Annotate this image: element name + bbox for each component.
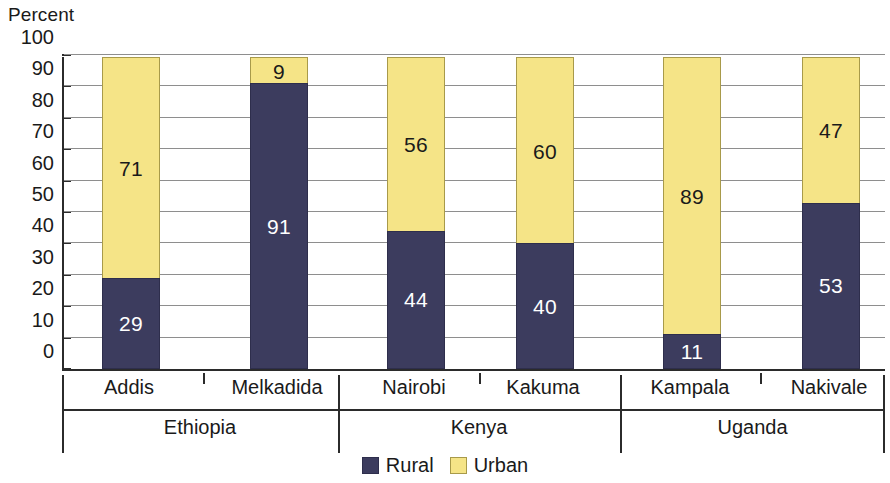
- category-axis-tick: [479, 373, 481, 384]
- legend-item-urban[interactable]: Urban: [450, 455, 528, 475]
- legend-label: Urban: [474, 455, 528, 475]
- category-label-nairobi: Nairobi: [344, 375, 484, 399]
- bar-melkadida[interactable]: 991: [250, 57, 308, 369]
- bar-value-urban: 60: [533, 141, 557, 162]
- y-axis-title: Percent: [8, 4, 74, 26]
- y-axis-tick-label: 80: [10, 90, 54, 110]
- gridline: [64, 54, 885, 55]
- y-axis-tick-label: 0: [10, 341, 54, 361]
- bar-value-urban: 9: [273, 61, 285, 82]
- bar-kampala[interactable]: 8911: [663, 57, 721, 369]
- bar-segment-urban[interactable]: 47: [802, 57, 860, 205]
- category-label-addis: Addis: [59, 375, 199, 399]
- y-axis-tick-label: 100: [10, 27, 54, 47]
- bar-segment-rural[interactable]: 29: [102, 278, 160, 369]
- legend-swatch-urban-icon: [450, 457, 467, 474]
- category-axis: AddisMelkadidaNairobiKakumaKampalaNakiva…: [62, 373, 885, 411]
- y-axis-tick-label: 10: [10, 310, 54, 330]
- bar-value-urban: 71: [119, 158, 143, 179]
- bar-value-rural: 44: [404, 289, 428, 310]
- bar-value-rural: 11: [681, 341, 703, 362]
- bar-addis[interactable]: 7129: [102, 57, 160, 369]
- bar-value-rural: 29: [119, 313, 143, 334]
- bar-nakivale[interactable]: 4753: [802, 57, 860, 369]
- group-axis: EthiopiaKenyaUganda: [62, 409, 885, 453]
- y-axis-tick-label: 60: [10, 153, 54, 173]
- bar-value-urban: 56: [404, 134, 428, 155]
- bar-segment-rural[interactable]: 40: [516, 243, 574, 369]
- bar-kakuma[interactable]: 6040: [516, 57, 574, 369]
- bar-segment-rural[interactable]: 44: [387, 231, 445, 369]
- group-label-uganda: Uganda: [620, 415, 885, 439]
- bar-value-rural: 40: [533, 296, 557, 317]
- bar-value-urban: 47: [819, 120, 843, 141]
- group-label-kenya: Kenya: [338, 415, 620, 439]
- chart-legend: RuralUrban: [0, 455, 890, 475]
- bar-segment-rural[interactable]: 91: [250, 83, 308, 369]
- group-separator: [620, 375, 622, 453]
- bar-segment-rural[interactable]: 11: [663, 334, 721, 369]
- y-axis-tick-label: 30: [10, 247, 54, 267]
- legend-swatch-rural-icon: [362, 457, 379, 474]
- group-separator: [62, 375, 64, 453]
- bar-value-rural: 53: [819, 275, 843, 296]
- bar-nairobi[interactable]: 5644: [387, 57, 445, 369]
- y-axis-tick-label: 90: [10, 58, 54, 78]
- bar-segment-urban[interactable]: 9: [250, 57, 308, 85]
- category-label-kakuma: Kakuma: [473, 375, 613, 399]
- stacked-bar-chart: Percent 0102030405060708090100 712999156…: [0, 0, 890, 483]
- y-axis-tick-label: 40: [10, 215, 54, 235]
- bar-value-urban: 89: [680, 186, 704, 207]
- category-axis-tick: [203, 373, 205, 384]
- group-separator: [883, 375, 885, 453]
- y-axis-tick-labels: 0102030405060708090100: [0, 57, 54, 371]
- bar-segment-urban[interactable]: 89: [663, 57, 721, 336]
- bar-segment-urban[interactable]: 56: [387, 57, 445, 233]
- bar-segment-urban[interactable]: 71: [102, 57, 160, 280]
- y-axis-tick-label: 50: [10, 184, 54, 204]
- y-axis-tick-label: 70: [10, 121, 54, 141]
- legend-label: Rural: [386, 455, 434, 475]
- group-separator: [338, 375, 340, 453]
- bar-segment-urban[interactable]: 60: [516, 57, 574, 245]
- bar-segment-rural[interactable]: 53: [802, 203, 860, 369]
- bar-value-rural: 91: [267, 216, 291, 237]
- category-label-kampala: Kampala: [620, 375, 760, 399]
- category-axis-tick: [760, 373, 762, 384]
- category-label-melkadida: Melkadida: [207, 375, 347, 399]
- group-label-ethiopia: Ethiopia: [62, 415, 338, 439]
- plot-area: 71299915644604089114753: [62, 57, 885, 371]
- legend-item-rural[interactable]: Rural: [362, 455, 434, 475]
- category-label-nakivale: Nakivale: [759, 375, 890, 399]
- y-axis-tick-label: 20: [10, 278, 54, 298]
- bars-layer: 71299915644604089114753: [64, 57, 885, 369]
